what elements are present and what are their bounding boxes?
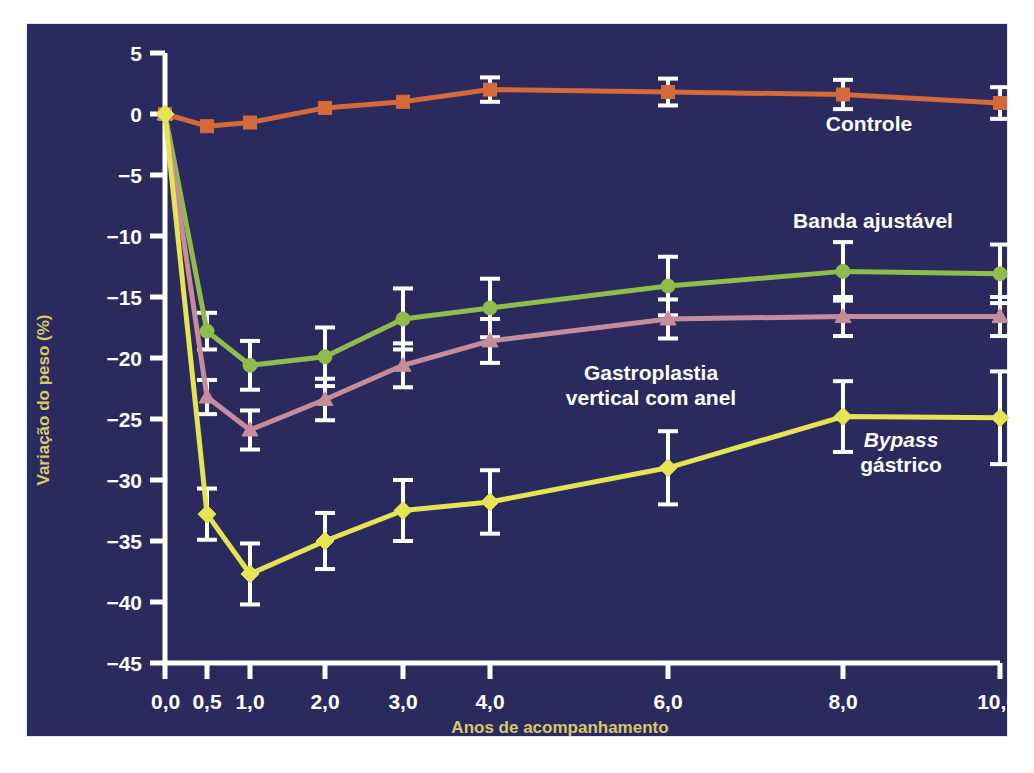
y-tick-label-7: −30	[106, 469, 142, 492]
data-point-1-1	[200, 324, 214, 338]
data-point-3-4	[394, 502, 412, 520]
y-tick-label-9: −40	[106, 591, 142, 614]
data-point-3-5	[481, 493, 499, 511]
x-tick-label-7: 8,0	[828, 690, 857, 713]
data-point-1-2	[243, 358, 257, 372]
y-tick-label-6: −25	[106, 408, 142, 431]
data-point-0-2	[244, 116, 257, 129]
annotations-group: ControleBanda ajustávelGastroplastiavert…	[566, 112, 953, 476]
label-controle: Controle	[826, 112, 912, 135]
data-point-1-6	[661, 279, 675, 293]
y-tick-label-8: −35	[106, 530, 142, 553]
label-gastroplastia-line1: Gastroplastia	[584, 361, 719, 384]
label-banda-ajustavel: Banda ajustável	[793, 209, 953, 232]
data-point-0-8	[994, 97, 1007, 110]
data-point-1-4	[396, 312, 410, 326]
series-group	[156, 77, 1010, 604]
data-point-3-3	[316, 532, 334, 550]
data-point-1-8	[993, 267, 1007, 281]
x-axis-title: Anos de acompanhamento	[451, 718, 668, 737]
y-tick-label-0: 5	[130, 42, 142, 65]
y-tick-label-3: −10	[106, 225, 142, 248]
data-point-3-8	[991, 409, 1009, 427]
x-tick-label-1: 0,5	[192, 690, 222, 713]
axes-group: 50−5−10−15−20−25−30−35−40−450,00,51,02,0…	[106, 42, 1018, 713]
x-tick-label-2: 1,0	[235, 690, 264, 713]
series-line	[165, 114, 1000, 574]
y-tick-label-2: −5	[118, 164, 142, 187]
x-tick-label-4: 3,0	[388, 690, 417, 713]
data-point-0-3	[319, 101, 332, 114]
data-point-3-7	[834, 408, 852, 426]
label-bypass-line2: gástrico	[860, 453, 942, 476]
x-tick-label-8: 10,0	[977, 690, 1018, 713]
data-point-0-7	[837, 88, 850, 101]
data-point-0-6	[662, 86, 675, 99]
label-bypass-line1: Bypass	[864, 428, 939, 451]
y-tick-label-5: −20	[106, 347, 142, 370]
x-tick-label-6: 6,0	[653, 690, 682, 713]
y-tick-label-4: −15	[106, 286, 142, 309]
series-bypass-g-strico	[156, 105, 1010, 604]
data-point-1-7	[836, 264, 850, 278]
y-tick-label-1: 0	[130, 103, 142, 126]
x-tick-label-5: 4,0	[475, 690, 504, 713]
data-point-0-1	[201, 120, 214, 133]
y-axis-title: Variação do peso (%)	[34, 315, 53, 486]
y-tick-label-10: −45	[106, 652, 142, 675]
data-point-1-5	[483, 301, 497, 315]
data-point-3-6	[659, 459, 677, 477]
label-gastroplastia-line2: vertical com anel	[566, 386, 736, 409]
data-point-1-3	[318, 350, 332, 364]
x-tick-label-3: 2,0	[310, 690, 339, 713]
data-point-2-1	[199, 389, 215, 403]
data-point-0-4	[397, 95, 410, 108]
figure-container: 50−5−10−15−20−25−30−35−40−450,00,51,02,0…	[0, 0, 1034, 773]
weight-change-line-chart: 50−5−10−15−20−25−30−35−40−450,00,51,02,0…	[0, 0, 1034, 773]
x-tick-label-0: 0,0	[151, 690, 180, 713]
data-point-0-5	[484, 83, 497, 96]
series-banda-ajust-vel	[158, 107, 1010, 390]
